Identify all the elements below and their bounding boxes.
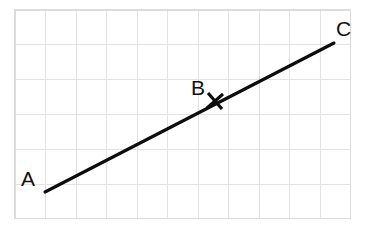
grid	[15, 10, 351, 219]
point-label-c: C	[336, 18, 351, 39]
line-segment-ac	[45, 43, 334, 192]
figure-canvas	[0, 0, 368, 228]
point-label-b: B	[191, 77, 205, 98]
geometry-figure: A B C	[0, 0, 368, 228]
point-label-a: A	[21, 168, 35, 189]
